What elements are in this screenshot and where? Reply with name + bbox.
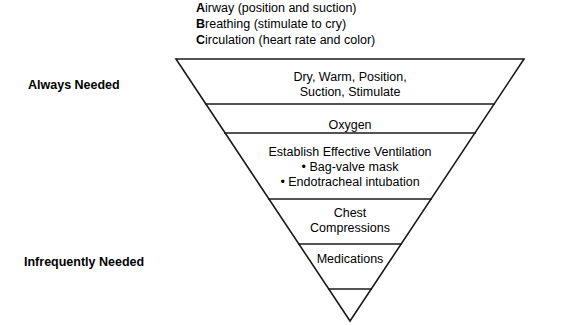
pyramid-row-line: Compressions <box>170 221 530 236</box>
inverted-pyramid: Dry, Warm, Position, Suction, Stimulate … <box>170 56 530 324</box>
abc-list-item: Circulation (heart rate and color) <box>196 32 526 48</box>
pyramid-row-initial-steps: Dry, Warm, Position, Suction, Stimulate <box>170 70 530 100</box>
pyramid-row-bullet: • Endotracheal intubation <box>170 175 530 190</box>
pyramid-row-medications: Medications <box>170 252 530 267</box>
abc-assessment-list: Airway (position and suction) Breathing … <box>196 0 526 48</box>
pyramid-row-line: Suction, Stimulate <box>170 85 530 100</box>
pyramid-row-oxygen: Oxygen <box>170 118 530 133</box>
pyramid-row-line: Establish Effective Ventilation <box>170 145 530 160</box>
pyramid-row-line: Oxygen <box>170 118 530 133</box>
diagram-canvas: Airway (position and suction) Breathing … <box>0 0 574 325</box>
abc-item-text: irculation (heart rate and color) <box>205 33 375 47</box>
label-infrequently-needed: Infrequently Needed <box>24 255 144 269</box>
pyramid-row-line: Chest <box>170 206 530 221</box>
abc-cue-letter: A <box>196 1 205 15</box>
abc-cue-letter: B <box>196 17 205 31</box>
abc-item-text: reathing (stimulate to cry) <box>205 17 346 31</box>
pyramid-row-line: Medications <box>170 252 530 267</box>
abc-item-text: irway (position and suction) <box>205 1 356 15</box>
abc-list-item: Airway (position and suction) <box>196 0 526 16</box>
abc-cue-letter: C <box>196 33 205 47</box>
pyramid-row-chest-compressions: Chest Compressions <box>170 206 530 236</box>
pyramid-row-ventilation: Establish Effective Ventilation • Bag-va… <box>170 145 530 190</box>
abc-list-item: Breathing (stimulate to cry) <box>196 16 526 32</box>
pyramid-row-line: Dry, Warm, Position, <box>170 70 530 85</box>
pyramid-row-bullet: • Bag-valve mask <box>170 160 530 175</box>
label-always-needed: Always Needed <box>28 78 120 92</box>
